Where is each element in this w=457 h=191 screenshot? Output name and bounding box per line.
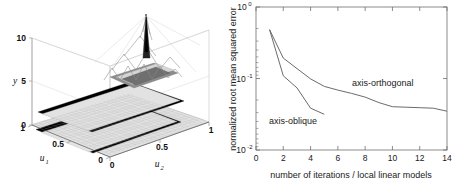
x-tick-10: 10 (388, 153, 398, 163)
z-axis-label: y (12, 76, 18, 86)
y-tick-label-10-0: 10 0 (237, 1, 252, 12)
y-tick-exp-0: 0 (248, 1, 252, 7)
u1-tick-0-5: 0.5 (52, 139, 64, 149)
surface-peak-spike (143, 14, 150, 58)
u1-tick-1: 1 (20, 123, 25, 133)
y-axis-title: normalized root mean squared error (228, 7, 238, 151)
x-tick-8: 8 (363, 153, 368, 163)
x-tick-0: 0 (254, 153, 259, 163)
u2-tick-0: 0 (110, 160, 115, 170)
x-tick-14: 14 (442, 153, 452, 163)
surface-plot-panel: 10 5 0 y (0, 0, 228, 191)
u2-axis-label-group: u 2 (155, 159, 165, 171)
error-curve-svg: 0 2 4 6 8 10 12 14 (228, 0, 457, 191)
surface-plot-svg: 10 5 0 y (0, 0, 228, 191)
u2-tick-1: 1 (209, 125, 214, 135)
surface-z-ticks (29, 38, 32, 125)
x-axis-title: number of iterations / local linear mode… (270, 170, 432, 180)
error-curve-panel: 0 2 4 6 8 10 12 14 (228, 0, 457, 191)
y-tick-label-10-neg1: 10 -1 (236, 73, 253, 84)
label-axis-orthogonal: axis-orthogonal (352, 78, 414, 88)
y-tick-exp-2: -2 (247, 144, 253, 150)
u1-tick-0: 0 (98, 155, 103, 165)
figure-container: 10 5 0 y (0, 0, 457, 191)
u1-axis-label: u (40, 153, 45, 163)
x-tick-2: 2 (281, 153, 286, 163)
x-tick-12: 12 (415, 153, 425, 163)
y-tick-base-0: 10 (237, 2, 247, 12)
x-tick-4: 4 (308, 153, 313, 163)
label-axis-oblique: axis-oblique (269, 116, 317, 126)
x-tick-6: 6 (335, 153, 340, 163)
z-tick-10: 10 (17, 33, 27, 43)
u2-tick-0-5: 0.5 (156, 142, 168, 152)
y-tick-exp-1: -1 (247, 73, 253, 79)
u2-axis-label-subscript: 2 (160, 164, 164, 171)
u1-axis-label-subscript: 1 (45, 158, 48, 165)
u1-axis-label-group: u 1 (40, 153, 49, 165)
surface-grey-patch (110, 63, 178, 88)
z-tick-5: 5 (21, 76, 26, 86)
y-tick-label-10-neg2: 10 -2 (236, 144, 253, 155)
u2-axis-label: u (155, 159, 160, 169)
